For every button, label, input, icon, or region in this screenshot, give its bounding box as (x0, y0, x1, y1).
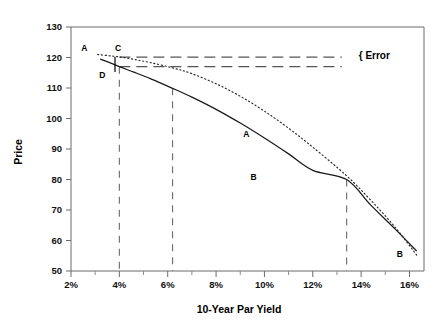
chart-container: 5060708090100110120130 2%4%6%8%10%12%14%… (0, 0, 443, 334)
point-label-a-top: A (81, 43, 87, 53)
point-label-a-mid: A (243, 129, 249, 139)
x-tick-label: 2% (64, 279, 78, 290)
point-label-b-end: B (397, 249, 403, 259)
x-tick-label: 6% (161, 279, 175, 290)
x-tick-label: 12% (303, 279, 323, 290)
y-tick-label: 100 (46, 113, 62, 124)
x-tick-label: 8% (209, 279, 223, 290)
error-bracket-label: { Error (359, 50, 390, 61)
y-tick-label: 60 (51, 235, 62, 246)
point-label-c: C (115, 43, 121, 53)
x-tick-label: 14% (352, 279, 372, 290)
point-label-d: D (99, 70, 105, 80)
price-vs-yield-chart: 5060708090100110120130 2%4%6%8%10%12%14%… (0, 0, 443, 334)
y-tick-label: 50 (51, 265, 62, 276)
x-tick-label: 16% (400, 279, 420, 290)
point-label-b-mid: B (250, 172, 256, 182)
y-tick-label: 70 (51, 204, 62, 215)
y-tick-label: 90 (51, 143, 62, 154)
y-tick-label: 130 (46, 21, 62, 32)
x-tick-label: 4% (112, 279, 126, 290)
y-tick-label: 120 (46, 52, 62, 63)
y-tick-label: 110 (47, 82, 62, 93)
x-axis-title: 10-Year Par Yield (197, 303, 282, 315)
y-tick-label: 80 (51, 174, 62, 185)
x-tick-label: 10% (255, 279, 275, 290)
y-axis-title: Price (12, 139, 24, 165)
